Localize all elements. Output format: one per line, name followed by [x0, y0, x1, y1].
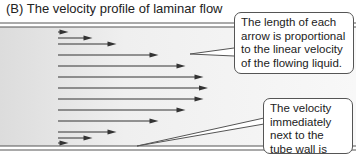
callout-wall-velocity: The velocity immediately next to the tub…	[263, 98, 353, 154]
callout-arrow-length: The length of each arrow is proportional…	[234, 12, 354, 74]
